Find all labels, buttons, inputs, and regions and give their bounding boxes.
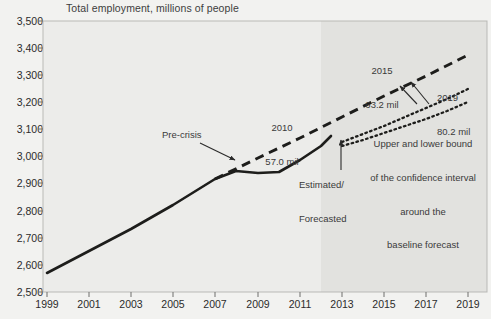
estimated-label-line2: Forecasted	[299, 213, 363, 224]
value-2019-year: 2019	[437, 92, 491, 103]
value-2015-year: 2015	[352, 65, 412, 76]
value-2010-year: 2010	[252, 122, 312, 133]
ci-label-line3: around the	[355, 206, 491, 217]
ci-label-line4: baseline forecast	[355, 239, 491, 250]
y-axis-ticks	[38, 21, 43, 292]
ci-label-line2: of the confidence interval	[355, 172, 491, 183]
x-axis-ticks	[47, 292, 468, 297]
annotation-estimated-forecasted: Estimated/ Forecasted	[299, 157, 363, 247]
estimated-label-line1: Estimated/	[299, 179, 363, 190]
chart-root: Total employment, millions of people 3,5…	[0, 0, 491, 319]
value-2015-amount: 63.2 mil	[352, 99, 412, 110]
annotation-confidence-interval: Upper and lower bound of the confidence …	[355, 116, 491, 273]
ci-label-line1: Upper and lower bound	[355, 138, 491, 149]
pre-crisis-label: Pre-crisis	[162, 129, 202, 140]
annotation-pre-crisis: Pre-crisis	[162, 129, 202, 140]
